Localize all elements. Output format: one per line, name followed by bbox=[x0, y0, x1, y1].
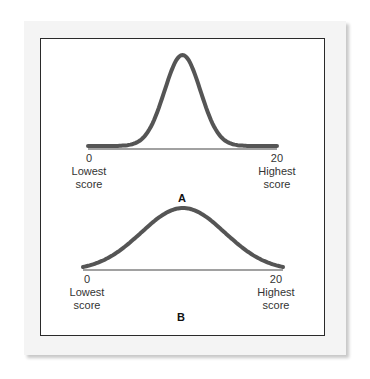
panel-b-label: B bbox=[177, 311, 185, 323]
panel-a-right-value: 20 bbox=[258, 152, 295, 165]
panel-b-left-tick: 0 Lowest score bbox=[70, 273, 105, 312]
panel-a-right-caption: Highest bbox=[258, 165, 295, 178]
panel-b-right-caption-2: score bbox=[257, 299, 294, 312]
panel-a-left-tick: 0 Lowest score bbox=[72, 152, 107, 191]
panel-a-curve bbox=[88, 55, 277, 146]
panel-b-right-tick: 20 Highest score bbox=[257, 273, 294, 312]
panel-b-right-value: 20 bbox=[257, 273, 294, 286]
panel-b-left-caption: Lowest bbox=[70, 286, 105, 299]
panel-a-label: A bbox=[178, 192, 186, 204]
panel-a-left-caption-2: score bbox=[72, 178, 107, 191]
panel-a-right-caption-2: score bbox=[258, 178, 295, 191]
panel-a-left-value: 0 bbox=[72, 152, 107, 165]
panel-b-curve bbox=[83, 208, 283, 267]
panel-a-left-caption: Lowest bbox=[72, 165, 107, 178]
panel-a-right-tick: 20 Highest score bbox=[258, 152, 295, 191]
panel-b-left-value: 0 bbox=[70, 273, 105, 286]
panel-b-left-caption-2: score bbox=[70, 299, 105, 312]
panel-b-right-caption: Highest bbox=[257, 286, 294, 299]
